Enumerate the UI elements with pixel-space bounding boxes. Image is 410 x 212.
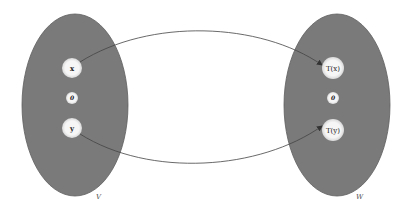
set-v: V xyxy=(22,14,128,201)
node-zero-w: 0 xyxy=(327,92,339,104)
set-v-ellipse xyxy=(22,14,128,196)
node-ty: T(y) xyxy=(322,119,344,141)
node-tx-label: T(x) xyxy=(326,65,340,73)
node-x: x xyxy=(62,58,82,78)
node-tx: T(x) xyxy=(322,57,344,79)
node-ty-label: T(y) xyxy=(326,127,340,135)
linear-map-diagram: V W x 0 y T(x) 0 T(y) xyxy=(0,0,410,212)
set-v-label: V xyxy=(96,193,102,201)
node-zero-v: 0 xyxy=(66,92,78,104)
node-y: y xyxy=(62,118,82,138)
set-w-label: W xyxy=(356,193,364,201)
set-w: W xyxy=(284,14,390,201)
set-w-ellipse xyxy=(284,14,390,196)
